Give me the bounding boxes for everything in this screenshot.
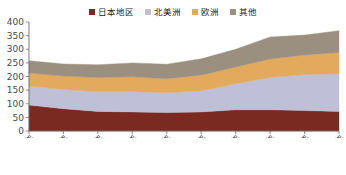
plot-area: 050100150200250300350400 1997年1998年1999年…	[0, 18, 346, 138]
y-tick-label: 0	[18, 126, 24, 136]
y-tick-label: 250	[7, 58, 24, 68]
legend-label: 北美洲	[154, 8, 181, 17]
y-tick-label: 400	[7, 18, 24, 27]
chart-canvas: 050100150200250300350400 1997年1998年1999年…	[0, 18, 346, 138]
x-tick-label: 2006年	[319, 133, 345, 138]
legend-label: 其他	[239, 8, 257, 17]
y-tick-label: 50	[13, 113, 25, 123]
x-tick-label: 2005年	[285, 133, 311, 138]
y-tick-label: 200	[7, 72, 24, 82]
y-axis-ticks: 050100150200250300350400	[7, 18, 29, 136]
x-tick-label: 2000年	[112, 133, 138, 138]
square-marker-icon	[230, 9, 236, 15]
legend-label: 欧洲	[201, 8, 219, 17]
x-tick-label: 1998年	[44, 133, 70, 138]
y-tick-label: 150	[7, 85, 24, 95]
x-tick-label: 2003年	[216, 133, 242, 138]
legend-item-japan[interactable]: 日本地区	[89, 8, 134, 17]
stacked-area-chart: 日本地区 北美洲 欧洲 其他 050100150200250300350400 …	[0, 0, 346, 175]
legend-label: 日本地区	[98, 8, 134, 17]
x-tick-label: 1999年	[78, 133, 104, 138]
x-tick-label: 2001年	[147, 133, 173, 138]
legend-item-europe[interactable]: 欧洲	[192, 8, 219, 17]
chart-legend: 日本地区 北美洲 欧洲 其他	[0, 5, 346, 19]
x-tick-label: 2002年	[181, 133, 207, 138]
x-axis-ticks: 1997年1998年1999年2000年2001年2002年2003年2004年…	[9, 131, 345, 138]
x-tick-label: 2004年	[250, 133, 276, 138]
legend-item-north-america[interactable]: 北美洲	[145, 8, 181, 17]
y-tick-label: 100	[7, 99, 24, 109]
y-tick-label: 350	[7, 31, 24, 41]
area-series-group	[29, 31, 339, 131]
square-marker-icon	[89, 9, 95, 15]
y-tick-label: 300	[7, 44, 24, 54]
square-marker-icon	[192, 9, 198, 15]
square-marker-icon	[145, 9, 151, 15]
legend-item-other[interactable]: 其他	[230, 8, 257, 17]
